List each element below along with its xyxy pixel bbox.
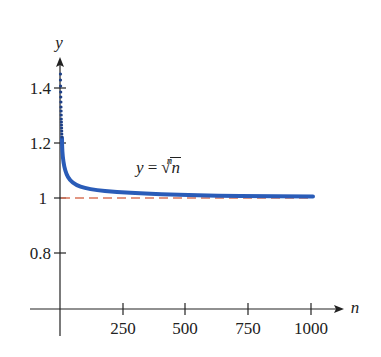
x-tick-label: 250 [110, 319, 136, 338]
x-tick-label: 1000 [294, 319, 328, 338]
axes [30, 62, 340, 336]
y-tick-label: 1.2 [30, 134, 51, 153]
curve-label-lhs: y [136, 158, 144, 177]
y-tick-label: 0.8 [30, 244, 51, 263]
x-tick-label: 500 [172, 319, 198, 338]
y-tick-label: 1.4 [30, 79, 52, 98]
chart: 1.4 1.2 1 0.8 250 500 750 1000 y n [0, 0, 381, 357]
radicand: n [170, 157, 181, 177]
x-axis-label: n [351, 298, 360, 317]
radical-index: n [167, 154, 173, 166]
curve-label: y = n√n [136, 158, 181, 178]
y-axis-label: y [53, 33, 63, 52]
curve-nth-root [62, 138, 313, 197]
y-tick-label: 1 [39, 189, 48, 208]
curve-label-eq: = [144, 158, 162, 177]
x-tick-label: 750 [235, 319, 261, 338]
